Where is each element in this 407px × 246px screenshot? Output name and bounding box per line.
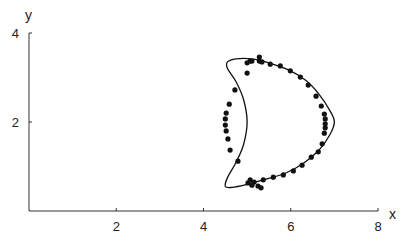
data-point xyxy=(323,125,328,130)
data-point xyxy=(225,136,230,141)
data-point xyxy=(249,58,254,63)
x-tick-label: 6 xyxy=(287,219,294,234)
y-axis-label: y xyxy=(25,7,32,23)
data-point xyxy=(228,147,233,152)
x-tick-label: 2 xyxy=(113,219,120,234)
y-tick-label: 2 xyxy=(12,115,19,130)
y-tick-label: 4 xyxy=(12,26,19,41)
data-point xyxy=(227,102,232,107)
data-point xyxy=(291,168,296,173)
data-point xyxy=(278,63,283,68)
data-point xyxy=(313,94,318,99)
data-point xyxy=(235,159,240,164)
data-point xyxy=(245,180,250,185)
data-points xyxy=(223,54,328,190)
data-point xyxy=(298,74,303,79)
data-point xyxy=(261,177,266,182)
data-point xyxy=(309,155,314,160)
x-axis-label: x xyxy=(389,206,396,222)
data-point xyxy=(323,116,328,121)
data-point xyxy=(268,62,273,67)
data-point xyxy=(232,87,237,92)
data-point xyxy=(322,131,327,136)
data-point xyxy=(306,82,311,87)
x-tick-label: 8 xyxy=(374,219,381,234)
data-point xyxy=(223,123,228,128)
scatter-chart: 2468 24 x y xyxy=(0,0,407,246)
x-tick-label: 4 xyxy=(200,219,207,234)
data-point xyxy=(258,185,263,190)
fitted-curve xyxy=(225,58,334,187)
data-point xyxy=(271,175,276,180)
data-point xyxy=(223,116,228,121)
data-point xyxy=(319,103,324,108)
data-point xyxy=(245,70,250,75)
data-point xyxy=(322,111,327,116)
data-point xyxy=(288,68,293,73)
data-point xyxy=(320,141,325,146)
x-ticks: 2468 xyxy=(113,208,382,234)
data-point xyxy=(259,59,264,64)
data-point xyxy=(299,163,304,168)
data-point xyxy=(224,128,229,133)
data-point xyxy=(316,149,321,154)
data-point xyxy=(281,172,286,177)
data-point xyxy=(224,111,229,116)
